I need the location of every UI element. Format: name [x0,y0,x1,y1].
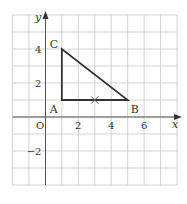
y-tick-label: −2 [27,146,42,157]
x-axis-label: x [172,118,179,131]
y-tick-label: 2 [35,78,41,89]
x-tick-label: 4 [108,120,114,131]
coordinate-grid-diagram: 24642−2 x y O ABC [0,0,187,204]
x-tick-label: 6 [141,120,147,131]
vertex-label-b: B [131,103,139,116]
origin-label: O [36,120,44,131]
vertex-label-a: A [49,103,59,116]
y-axis-label: y [34,11,42,24]
vertex-label-c: C [50,38,58,51]
x-tick-label: 2 [75,120,81,131]
y-tick-label: 4 [35,44,41,55]
